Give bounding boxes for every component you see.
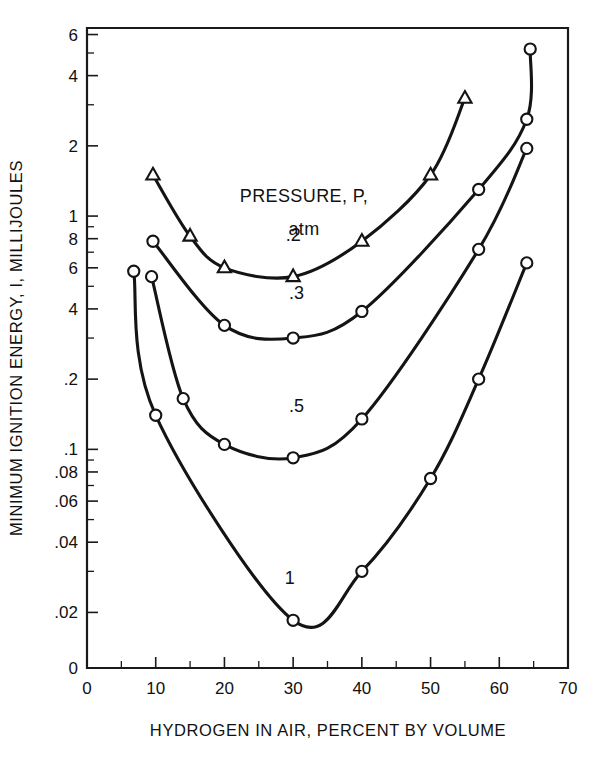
x-tick-label: 20 [215,679,234,698]
y-tick-label: .02 [54,603,78,622]
x-axis-ticks [87,657,568,668]
data-marker-circle [288,615,299,626]
x-tick-label: 60 [490,679,509,698]
x-axis-title: HYDROGEN IN AIR, PERCENT BY VOLUME [150,721,506,739]
x-tick-label: 30 [284,679,303,698]
data-marker-circle [288,452,299,463]
y-tick-label: .04 [54,533,78,552]
y-axis-tick-labels: 6421864.2.1.08.06.04.020 [54,26,78,678]
data-marker-triangle [355,234,368,246]
data-marker-circle [473,374,484,385]
chart-figure: 6421864.2.1.08.06.04.020 010203040506070… [0,0,606,761]
data-marker-triangle [146,168,159,180]
y-tick-label: 1 [69,207,78,226]
data-marker-circle [147,236,158,247]
data-marker-circle [356,413,367,424]
x-tick-label: 10 [146,679,165,698]
data-marker-circle [521,114,532,125]
data-marker-circle [146,271,157,282]
y-axis-origin-label: 0 [69,659,78,678]
y-axis-ticks [87,35,98,613]
x-axis-tick-labels: 010203040506070 [82,679,577,698]
y-tick-label: .2 [64,370,78,389]
series-label-p3: .3 [289,283,304,303]
y-tick-label: .06 [54,492,78,511]
x-tick-label: 40 [352,679,371,698]
y-tick-label: .08 [54,463,78,482]
y-tick-label: 4 [69,67,78,86]
data-curves [134,49,532,627]
data-marker-circle [288,332,299,343]
data-marker-triangle [458,91,471,103]
data-marker-circle [473,244,484,255]
y-tick-label: 8 [69,230,78,249]
data-marker-circle [128,266,139,277]
x-tick-label: 0 [82,679,91,698]
data-marker-circle [356,566,367,577]
y-tick-label: 6 [69,26,78,45]
data-marker-circle [521,143,532,154]
data-marker-circle [219,439,230,450]
legend-block: PRESSURE, P, atm [240,186,369,239]
data-marker-circle [425,473,436,484]
y-tick-label: 2 [69,137,78,156]
data-marker-circle [356,306,367,317]
data-markers [128,43,536,625]
data-marker-circle [473,184,484,195]
legend-title: PRESSURE, P, [240,186,369,206]
data-marker-circle [521,257,532,268]
data-marker-circle [525,43,536,54]
x-tick-label: 50 [421,679,440,698]
data-marker-circle [219,320,230,331]
data-marker-circle [150,410,161,421]
ignition-energy-chart: 6421864.2.1.08.06.04.020 010203040506070… [0,0,606,761]
x-tick-label: 70 [559,679,578,698]
series-label-p5: .5 [289,396,304,416]
legend-units: atm [288,219,319,239]
y-tick-label: .1 [64,440,78,459]
axis-frame [87,28,568,668]
data-marker-circle [178,393,189,404]
y-tick-label: 6 [69,259,78,278]
series-label-1: 1 [285,568,295,588]
y-axis-title: MINIMUM IGNITION ENERGY, I, MILLIJOULES [7,160,25,536]
y-tick-label: 4 [69,300,78,319]
